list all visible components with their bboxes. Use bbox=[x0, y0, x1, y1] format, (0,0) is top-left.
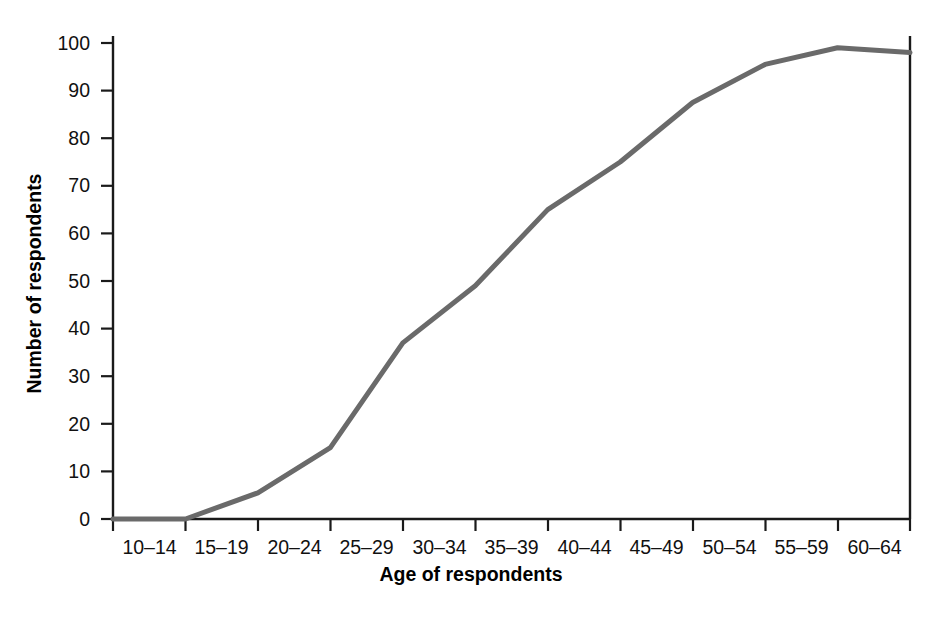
x-tick-label: 45–49 bbox=[616, 538, 697, 558]
y-axis-title: Number of respondents bbox=[23, 74, 46, 494]
x-tick-label: 20–24 bbox=[254, 538, 335, 558]
y-tick-label: 0 bbox=[20, 510, 90, 530]
x-axis-title: Age of respondents bbox=[0, 563, 942, 586]
x-tick-label: 40–44 bbox=[544, 538, 625, 558]
x-tick-label: 35–39 bbox=[471, 538, 552, 558]
x-tick-label: 55–59 bbox=[761, 538, 842, 558]
x-tick-label: 25–29 bbox=[326, 538, 407, 558]
data-series-line bbox=[113, 48, 910, 519]
x-tick-label: 50–54 bbox=[689, 538, 770, 558]
x-tick-label: 60–64 bbox=[834, 538, 915, 558]
chart-figure: 0 10 20 30 40 50 60 70 80 90 100 10–14 1… bbox=[0, 0, 942, 621]
x-tick-label: 15–19 bbox=[181, 538, 262, 558]
x-tick-marks bbox=[113, 519, 910, 531]
x-tick-label: 10–14 bbox=[109, 538, 190, 558]
x-tick-label: 30–34 bbox=[399, 538, 480, 558]
plot-area bbox=[0, 0, 942, 621]
y-tick-label: 100 bbox=[20, 34, 90, 54]
y-tick-marks bbox=[101, 43, 113, 519]
